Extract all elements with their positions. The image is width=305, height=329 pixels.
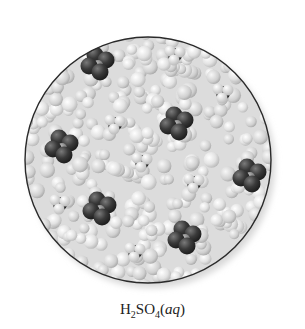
state-label: aq <box>165 301 180 317</box>
molecular-view-diagram <box>0 0 305 300</box>
formula-so: SO <box>136 301 155 317</box>
formula-sub-4: 4 <box>155 309 160 320</box>
formula-h: H <box>120 301 131 317</box>
formula-caption: H2SO4(aq) <box>0 301 305 320</box>
